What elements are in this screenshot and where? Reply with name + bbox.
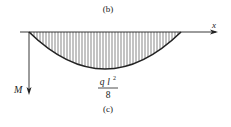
x-axis-label: x xyxy=(211,20,216,30)
bending-moment-diagram: (b) xyxy=(0,0,231,127)
fraction-l: l xyxy=(107,77,110,87)
caption-c: (c) xyxy=(103,104,113,114)
fraction-exponent: 2 xyxy=(113,75,116,81)
m-axis-label: M xyxy=(13,84,23,95)
fraction-denominator: 8 xyxy=(106,90,111,100)
caption-b: (b) xyxy=(103,4,114,14)
max-moment-label: q l 2 8 xyxy=(98,75,118,100)
hatch-fill xyxy=(31,32,178,80)
fraction-q: q xyxy=(100,77,105,87)
